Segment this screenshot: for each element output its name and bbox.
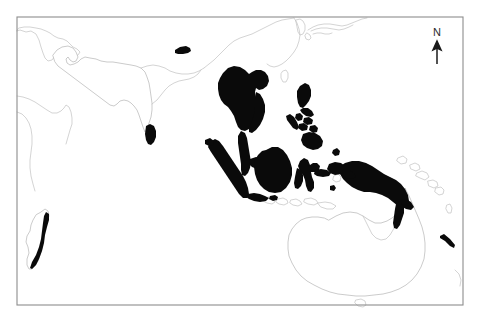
distribution-map-figure: N bbox=[0, 0, 479, 323]
map-canvas: N bbox=[0, 0, 479, 323]
compass-north-label: N bbox=[433, 26, 441, 38]
